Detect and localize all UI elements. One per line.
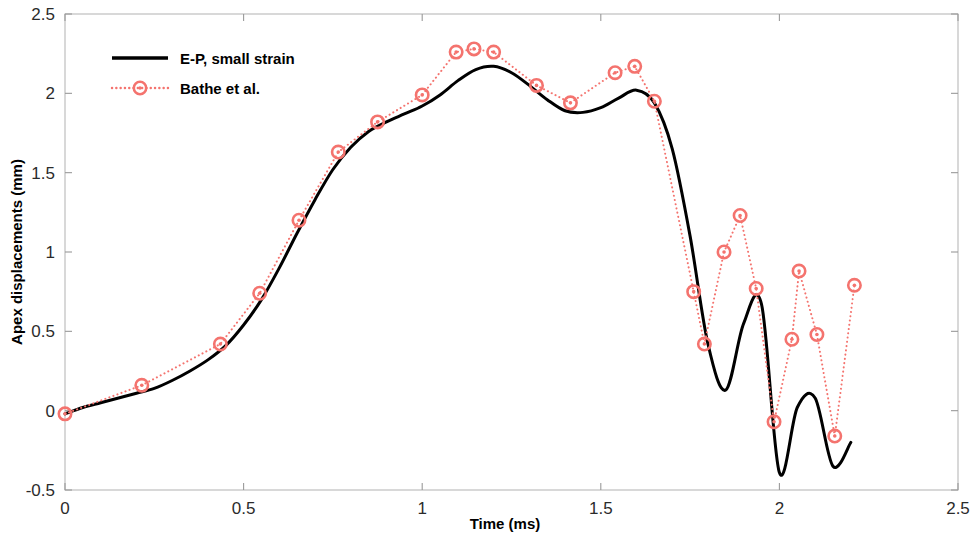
x-tick-label: 1: [417, 499, 426, 518]
y-tick-label: 0.5: [31, 322, 55, 341]
chart-canvas: 00.511.522.5-0.500.511.522.5 Time (ms)Ap…: [0, 0, 972, 536]
series-marker-dot: [420, 93, 424, 97]
x-axis-title: Time (ms): [470, 515, 541, 532]
data-series-group: [59, 43, 861, 476]
series-marker-dot: [754, 287, 758, 291]
y-tick-label: -0.5: [26, 481, 55, 500]
series-marker-dot: [535, 84, 539, 88]
series-marker-dot: [853, 284, 857, 288]
chart-figure: 00.511.522.5-0.500.511.522.5 Time (ms)Ap…: [0, 0, 972, 536]
x-tick-label: 2: [775, 499, 784, 518]
y-tick-label: 1.5: [31, 164, 55, 183]
legend-sample-marker-dot: [138, 86, 142, 90]
series-marker-dot: [454, 50, 458, 54]
series-marker-dot: [772, 420, 776, 424]
series-marker-dot: [492, 50, 496, 54]
chart-legend: E-P, small strainBathe et al.: [112, 50, 295, 97]
series-marker-dot: [833, 434, 837, 438]
x-tick-label: 0: [60, 499, 69, 518]
series-line-0: [65, 66, 851, 475]
series-marker-dot: [633, 65, 637, 69]
series-marker-dot: [297, 218, 301, 222]
series-marker-dot: [376, 120, 380, 124]
series-line-1: [65, 49, 854, 436]
y-axis-title: Apex displacements (mm): [8, 159, 25, 345]
x-tick-label: 1.5: [589, 499, 613, 518]
axes-group: 00.511.522.5-0.500.511.522.5: [26, 5, 970, 518]
series-marker-dot: [722, 250, 726, 254]
series-marker-dot: [738, 214, 742, 218]
series-marker-dot: [219, 342, 223, 346]
series-marker-dot: [790, 337, 794, 341]
series-marker-dot: [815, 333, 819, 337]
x-tick-label: 0.5: [232, 499, 256, 518]
series-marker-dot: [692, 290, 696, 294]
series-marker-dot: [472, 47, 476, 51]
series-marker-dot: [703, 342, 707, 346]
y-tick-label: 1: [46, 243, 55, 262]
y-tick-label: 2: [46, 84, 55, 103]
series-marker-dot: [336, 150, 340, 154]
series-marker-dot: [63, 412, 67, 416]
legend-label-1: Bathe et al.: [180, 80, 260, 97]
series-marker-dot: [569, 101, 573, 105]
series-marker-dot: [653, 99, 657, 103]
y-tick-label: 2.5: [31, 5, 55, 24]
series-marker-dot: [258, 291, 262, 295]
legend-label-0: E-P, small strain: [180, 50, 295, 67]
y-tick-label: 0: [46, 402, 55, 421]
series-marker-dot: [140, 383, 144, 387]
axis-labels-group: Time (ms)Apex displacements (mm): [8, 159, 540, 532]
series-marker-dot: [797, 269, 801, 273]
series-marker-dot: [613, 71, 617, 75]
x-tick-label: 2.5: [946, 499, 970, 518]
